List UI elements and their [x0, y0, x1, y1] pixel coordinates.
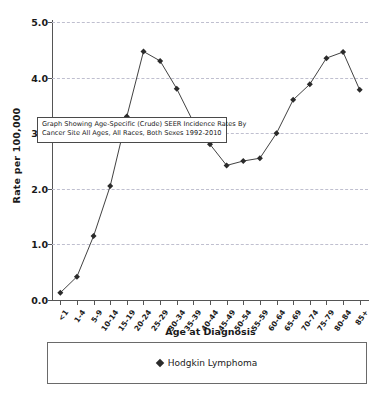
y-axis-tick-mark: [48, 244, 52, 245]
x-axis-tick-mark: [193, 300, 194, 305]
x-axis-tick-label: <1: [57, 308, 71, 323]
x-axis-tick-mark: [326, 300, 327, 305]
x-axis-tick-mark: [293, 300, 294, 305]
diamond-marker-icon: [156, 359, 164, 367]
data-point-marker: [274, 130, 280, 136]
data-point-marker: [140, 48, 146, 54]
data-point-marker: [107, 183, 113, 189]
x-axis-tick-mark: [110, 300, 111, 305]
y-axis-tick-mark: [48, 22, 52, 23]
chart-container: Rate per 100,000 5.04.03.02.01.00.0 <11-…: [0, 0, 387, 398]
y-axis-tick-labels: 5.04.03.02.01.00.0: [10, 22, 48, 300]
data-point-marker: [357, 87, 363, 93]
legend-item-hodgkin-lymphoma[interactable]: Hodgkin Lymphoma: [157, 358, 257, 368]
x-axis-tick-mark: [143, 300, 144, 305]
data-point-marker: [323, 55, 329, 61]
x-axis-tick-mark: [60, 300, 61, 305]
x-axis-tick-mark: [343, 300, 344, 305]
data-point-marker: [91, 233, 97, 239]
tooltip-line-2: Cancer Site All Ages, All Races, Both Se…: [42, 129, 223, 138]
x-axis-tick-label: 1-4: [72, 308, 87, 324]
x-axis-tick-mark: [277, 300, 278, 305]
y-axis-tick-label: 5.0: [14, 17, 48, 28]
y-axis-tick-label: 2.0: [14, 183, 48, 194]
y-axis-tick-label: 4.0: [14, 72, 48, 83]
legend-item-label: Hodgkin Lymphoma: [168, 358, 257, 368]
series-line-hodgkin-lymphoma: [52, 22, 368, 300]
x-axis-tick-label: 85+: [353, 308, 370, 327]
x-axis-tick-mark: [227, 300, 228, 305]
data-point-marker: [157, 58, 163, 64]
x-axis-tick-mark: [160, 300, 161, 305]
plot-area: [52, 22, 368, 300]
x-axis-tick-mark: [77, 300, 78, 305]
y-axis-tick-label: 1.0: [14, 239, 48, 250]
y-axis-tick-mark: [48, 78, 52, 79]
data-point-marker: [257, 155, 263, 161]
tooltip-line-1: Graph Showing Age-Specific (Crude) SEER …: [42, 120, 223, 129]
x-axis-tick-mark: [260, 300, 261, 305]
x-axis-tick-mark: [360, 300, 361, 305]
x-axis-tick-mark: [177, 300, 178, 305]
y-axis-tick-mark: [48, 189, 52, 190]
x-axis-tick-mark: [310, 300, 311, 305]
x-axis-title: Age at Diagnosis: [52, 326, 369, 337]
x-axis-tick-mark: [94, 300, 95, 305]
data-point-marker: [340, 49, 346, 55]
chart-tooltip: Graph Showing Age-Specific (Crude) SEER …: [37, 117, 227, 143]
chart-legend: Hodgkin Lymphoma: [47, 342, 367, 384]
data-point-marker: [240, 158, 246, 164]
x-axis-tick-mark: [127, 300, 128, 305]
x-axis-tick-mark: [243, 300, 244, 305]
x-axis-tick-mark: [210, 300, 211, 305]
data-point-marker: [174, 86, 180, 92]
y-axis-tick-mark: [48, 300, 52, 301]
y-axis-tick-label: 0.0: [14, 295, 48, 306]
